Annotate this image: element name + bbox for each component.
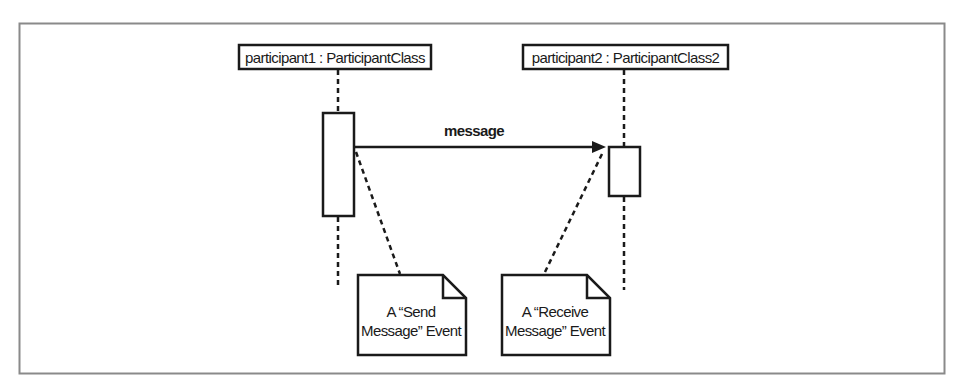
sequence-diagram: participant1 : ParticipantClass particip… (0, 0, 961, 386)
receive-note-anchor (544, 154, 602, 274)
arrowhead-icon (592, 141, 606, 153)
send-note-line-1: A “Send (386, 303, 435, 320)
receive-event-note: A “Receive Message” Event (502, 275, 610, 355)
message-arrow: message (354, 122, 606, 153)
send-note-line-2: Message” Event (361, 322, 462, 339)
diagram-frame (20, 24, 945, 374)
participant-2-activation (609, 147, 640, 196)
participant-1-label: participant1 : ParticipantClass (245, 49, 425, 66)
send-note-anchor (356, 152, 400, 274)
participant-2-label: participant2 : ParticipantClass2 (532, 49, 720, 66)
receive-note-line-2: Message” Event (505, 322, 606, 339)
receive-note-line-1: A “Receive (522, 303, 589, 320)
message-label: message (444, 122, 504, 139)
send-event-note: A “Send Message” Event (358, 275, 466, 355)
participant-1: participant1 : ParticipantClass (239, 45, 431, 288)
participant-1-activation (323, 113, 354, 216)
